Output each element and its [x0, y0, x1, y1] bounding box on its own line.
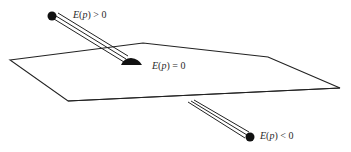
point-below-ball [246, 133, 255, 142]
label-positive: E(p) > 0 [73, 10, 106, 20]
plane-polygon [10, 43, 340, 101]
plane-sign-diagram [0, 0, 351, 152]
lower-rod [188, 100, 249, 138]
label-negative: E(p) < 0 [260, 131, 293, 141]
label-zero: E(p) = 0 [152, 61, 185, 71]
point-above-ball [48, 12, 57, 21]
